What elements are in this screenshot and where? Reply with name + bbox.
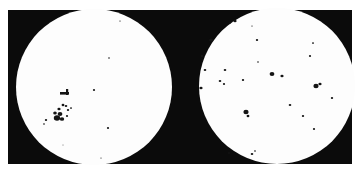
sunspot <box>100 157 101 158</box>
sunspot <box>224 69 227 71</box>
sunspot <box>233 20 236 23</box>
sunspot <box>63 145 64 146</box>
left-solar-disc <box>16 9 172 165</box>
sunspot <box>313 84 318 88</box>
sunspot <box>247 115 250 117</box>
solar-disc-surface <box>16 9 172 165</box>
sunspot <box>66 89 68 95</box>
sunspot <box>219 80 222 82</box>
sunspot <box>228 152 230 154</box>
sunspot <box>312 42 314 44</box>
sunspot <box>53 111 57 114</box>
sunspot <box>196 85 197 86</box>
sunspot <box>270 72 275 76</box>
sunspot <box>201 55 204 57</box>
sunspot <box>62 104 65 106</box>
sunspot <box>70 107 72 109</box>
sunspot <box>119 20 120 21</box>
sunspot <box>256 39 258 41</box>
sunspot <box>65 105 68 107</box>
sunspot <box>57 108 60 111</box>
sunspot <box>318 83 321 86</box>
sunspot <box>254 150 256 152</box>
sunspot <box>257 61 259 62</box>
right-solar-disc <box>196 8 355 164</box>
sunspot <box>60 117 64 121</box>
sunspot-photographs <box>0 0 358 173</box>
sunspot <box>209 38 213 41</box>
sunspot <box>331 97 333 99</box>
sunspot <box>108 57 110 58</box>
sunspot <box>58 112 63 116</box>
sunspot <box>54 115 60 120</box>
sunspot <box>204 69 207 71</box>
sunspot <box>243 110 248 114</box>
solar-disc-surface <box>199 8 355 164</box>
sunspot <box>302 115 304 117</box>
sunspot <box>313 128 315 130</box>
sunspot <box>251 153 254 155</box>
sunspot <box>45 119 47 121</box>
sunspot <box>66 115 68 117</box>
sunspot <box>280 75 283 78</box>
sunspot <box>251 25 252 26</box>
sunspot <box>107 127 109 129</box>
sunspot <box>309 55 311 57</box>
sunspot <box>67 109 69 111</box>
sunspot <box>229 22 231 23</box>
sunspot <box>43 123 45 125</box>
sunspot <box>199 87 202 90</box>
sunspot <box>242 79 244 81</box>
sunspot <box>93 89 95 91</box>
sunspot <box>289 104 292 106</box>
sunspot <box>223 83 225 85</box>
